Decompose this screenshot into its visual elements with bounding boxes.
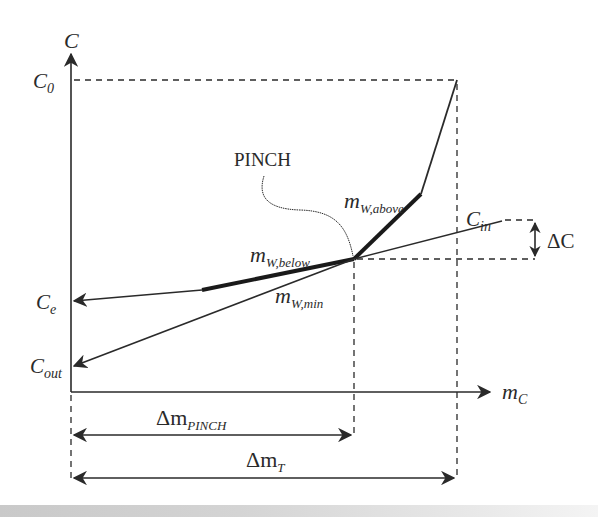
bottom-shadow-band bbox=[0, 505, 598, 517]
m-w-below-label: mW,below bbox=[250, 242, 310, 270]
ce-line bbox=[74, 290, 202, 301]
ce-label: Ce bbox=[36, 290, 56, 317]
m-w-min-label: mW,min bbox=[275, 283, 323, 311]
y-axis-label: C bbox=[64, 28, 79, 53]
delta-m-t-label: ΔmT bbox=[246, 447, 285, 475]
c0-label: C0 bbox=[33, 69, 54, 96]
x-axis-label: mC bbox=[502, 379, 528, 407]
pinch-diagram: C C0 Ce Cout Cin ΔC mC PINCH mW,above mW… bbox=[0, 0, 598, 505]
pinch-label: PINCH bbox=[234, 149, 291, 170]
pinch-leader-curve bbox=[262, 176, 353, 256]
m-w-min-line bbox=[74, 259, 354, 366]
m-w-above-label: mW,above bbox=[344, 188, 404, 216]
cout-label: Cout bbox=[30, 354, 63, 381]
delta-m-pinch-label: ΔmPINCH bbox=[156, 405, 227, 433]
composite-curve-upper bbox=[421, 80, 457, 194]
cin-label: Cin bbox=[466, 207, 491, 234]
delta-c-label: ΔC bbox=[547, 229, 575, 253]
